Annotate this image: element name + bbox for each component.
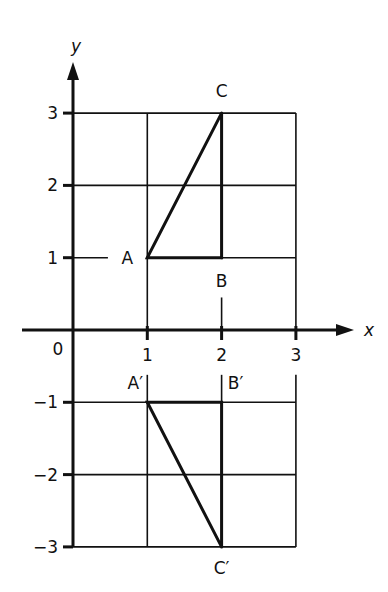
y-axis-label: y bbox=[70, 36, 82, 56]
y-tick-label: −1 bbox=[33, 392, 58, 412]
y-axis-arrow bbox=[67, 62, 79, 80]
point-label-prime-1: B′ bbox=[228, 373, 244, 393]
x-axis-arrow bbox=[336, 324, 354, 336]
origin-label: 0 bbox=[53, 339, 64, 359]
point-label-2: C bbox=[216, 81, 228, 101]
y-tick-label: −3 bbox=[33, 537, 58, 557]
x-axis-label: x bbox=[363, 320, 375, 340]
point-label-1: B bbox=[216, 271, 228, 291]
y-tick-label: 3 bbox=[47, 103, 58, 123]
coordinate-plane: 321−1−2−31230yxABCA′B′C′ bbox=[0, 0, 388, 592]
y-tick-label: 1 bbox=[47, 248, 58, 268]
labels: 321−1−2−31230yxABCA′B′C′ bbox=[33, 36, 375, 578]
x-tick-label: 3 bbox=[290, 345, 301, 365]
point-label-0: A bbox=[121, 248, 133, 268]
vertex-point bbox=[220, 545, 223, 548]
point-label-prime-0: A′ bbox=[128, 373, 144, 393]
vertex-point bbox=[220, 401, 223, 404]
x-tick-label: 1 bbox=[142, 345, 153, 365]
vertex-point bbox=[146, 256, 149, 259]
x-tick-label: 2 bbox=[216, 345, 227, 365]
y-tick-label: −2 bbox=[33, 465, 58, 485]
point-label-prime-2: C′ bbox=[214, 558, 230, 578]
y-tick-label: 2 bbox=[47, 175, 58, 195]
vertex-point bbox=[220, 112, 223, 115]
vertex-point bbox=[146, 401, 149, 404]
vertex-point bbox=[220, 256, 223, 259]
